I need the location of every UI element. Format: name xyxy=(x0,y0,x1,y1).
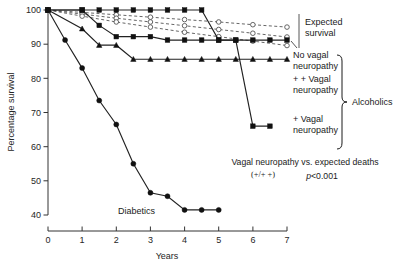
series-2-point-3 xyxy=(148,25,153,30)
series-4-point-1 xyxy=(79,26,84,31)
plus-vagal-label-line1: + Vagal xyxy=(293,114,323,124)
y-tick-label-90: 90 xyxy=(31,39,41,49)
diabetics-label: Diabetics xyxy=(118,206,156,216)
series-5-point-2 xyxy=(97,8,102,13)
series-3-point-8 xyxy=(199,38,204,43)
series-6-point-5 xyxy=(131,161,136,166)
x-axis-title: Years xyxy=(156,251,179,261)
series-0-point-5 xyxy=(216,20,221,25)
series-5-point-7 xyxy=(182,8,187,13)
series-2-point-4 xyxy=(182,30,187,35)
series-2-point-1 xyxy=(80,14,85,19)
series-5-point-6 xyxy=(165,8,170,13)
stat-p-number: <0.001 xyxy=(311,171,338,181)
series-3-point-4 xyxy=(131,34,136,39)
series-5-point-12 xyxy=(268,124,273,129)
x-tick-label-1: 1 xyxy=(80,235,85,245)
y-axis-title: Percentage survival xyxy=(6,72,16,151)
series-6-point-8 xyxy=(182,207,187,212)
series-0-point-4 xyxy=(182,17,187,22)
plus-plus-vagal-label-line2: neuropathy xyxy=(293,85,339,95)
series-3-point-13 xyxy=(285,38,290,43)
x-tick-label-2: 2 xyxy=(114,235,119,245)
series-3-point-3 xyxy=(114,34,119,39)
series-5-point-4 xyxy=(131,8,136,13)
series-0-point-3 xyxy=(148,15,153,20)
expected-survival-label-line1: Expected xyxy=(305,17,343,27)
expected-survival-tick-leader xyxy=(291,41,297,48)
series-5-point-8 xyxy=(199,8,204,13)
series-6-point-2 xyxy=(80,66,85,71)
series-1-point-3 xyxy=(148,20,153,25)
survival-chart-svg: 100 90 80 70 60 50 40 Percentage surviva… xyxy=(0,0,409,265)
series-1-point-5 xyxy=(216,27,221,32)
series-layer xyxy=(45,7,289,212)
expected-survival-label-line2: survival xyxy=(305,28,336,38)
series-6-point-3 xyxy=(97,98,102,103)
y-tick-label-70: 70 xyxy=(31,108,41,118)
series-0-point-7 xyxy=(285,25,290,30)
series-6-point-0 xyxy=(46,8,51,13)
y-tick-label-60: 60 xyxy=(31,142,41,152)
series-3-point-2 xyxy=(97,23,102,28)
x-tick-label-6: 6 xyxy=(250,235,255,245)
x-tick-label-0: 0 xyxy=(45,235,50,245)
alcoholics-bracket xyxy=(337,55,347,149)
series-3-point-12 xyxy=(268,38,273,43)
series-3-point-6 xyxy=(165,38,170,43)
right-labels: Expected survival No vagal neuropathy + … xyxy=(118,17,393,216)
series-6-point-4 xyxy=(114,122,119,127)
stat-comparison-line1: Vagal neuropathy vs. expected deaths xyxy=(231,157,379,167)
survival-chart-figure: 100 90 80 70 60 50 40 Percentage surviva… xyxy=(0,0,409,265)
no-vagal-label-line2: neuropathy xyxy=(293,61,339,71)
series-6-point-7 xyxy=(165,194,170,199)
y-axis: 100 90 80 70 60 50 40 Percentage surviva… xyxy=(6,5,48,220)
series-5-point-3 xyxy=(114,8,119,13)
y-tick-label-80: 80 xyxy=(31,74,41,84)
stat-p-value-group: p<0.001 xyxy=(305,171,338,181)
x-axis: 0 1 2 3 4 5 6 7 Years xyxy=(45,227,289,262)
x-tick-label-3: 3 xyxy=(148,235,153,245)
series-1-point-4 xyxy=(182,23,187,28)
no-vagal-label-line1: No vagal xyxy=(293,50,329,60)
series-3-point-5 xyxy=(148,34,153,39)
series-2-point-7 xyxy=(285,43,290,48)
series-5-point-9 xyxy=(216,38,221,43)
series-2-point-2 xyxy=(114,20,119,25)
series-6-point-10 xyxy=(216,207,221,212)
series-1-point-6 xyxy=(251,31,256,36)
stat-comparison-line2: (+/+ +) xyxy=(251,170,275,179)
x-tick-label-4: 4 xyxy=(182,235,187,245)
series-5-point-1 xyxy=(80,8,85,13)
plus-plus-vagal-label-line1: + + Vagal xyxy=(293,74,331,84)
alcoholics-label: Alcoholics xyxy=(352,97,393,107)
y-tick-label-40: 40 xyxy=(31,210,41,220)
x-tick-label-7: 7 xyxy=(284,235,289,245)
series-5-point-5 xyxy=(148,8,153,13)
series-3-point-7 xyxy=(182,38,187,43)
series-5-point-10 xyxy=(233,38,238,43)
plus-vagal-label-line2: neuropathy xyxy=(293,125,339,135)
y-tick-label-100: 100 xyxy=(26,5,41,15)
series-6-point-6 xyxy=(148,190,153,195)
series-6-point-9 xyxy=(199,207,204,212)
statistics-annotation: Vagal neuropathy vs. expected deaths (+/… xyxy=(231,157,379,181)
series-3-point-11 xyxy=(251,38,256,43)
x-tick-label-5: 5 xyxy=(216,235,221,245)
y-tick-label-50: 50 xyxy=(31,176,41,186)
series-0-point-6 xyxy=(251,22,256,27)
series-5-point-11 xyxy=(251,124,256,129)
series-6-point-1 xyxy=(63,38,68,43)
